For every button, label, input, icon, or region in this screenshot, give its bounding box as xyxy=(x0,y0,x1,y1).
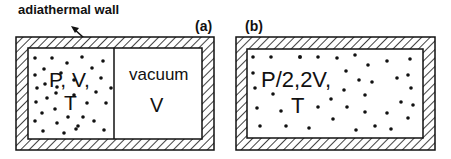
panel-a-tag: (a) xyxy=(195,18,212,34)
vacuum-label: vacuum xyxy=(129,65,189,84)
panel-a-gas-state-line2: T xyxy=(64,91,77,114)
panel-a-gas-state-line1: P, V, xyxy=(49,68,90,91)
arrow-icon xyxy=(71,26,84,38)
panel-b: (b) P/2,2V, T xyxy=(236,18,435,150)
panel-a: (a) P, V, T vacuum V xyxy=(16,18,214,150)
panel-a-chamber xyxy=(28,48,202,139)
panel-b-tag: (b) xyxy=(245,18,263,34)
adiathermal-wall-label: adiathermal wall xyxy=(18,2,119,17)
vacuum-volume-label: V xyxy=(150,94,164,116)
free-expansion-diagram: adiathermal wall (a) P, V, T vacuum V (b… xyxy=(0,0,451,159)
panel-b-gas-state-line1: P/2,2V, xyxy=(261,67,331,92)
panel-b-gas-state-line2: T xyxy=(291,93,304,118)
